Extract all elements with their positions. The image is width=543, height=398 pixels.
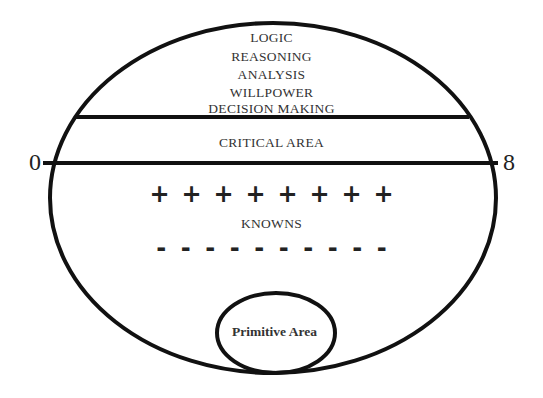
label-willpower: WILLPOWER xyxy=(0,86,543,100)
label-knowns: KNOWNS xyxy=(0,217,543,231)
minus-sign: - xyxy=(370,234,395,262)
minus-sign: - xyxy=(247,234,272,262)
axis-start-label: 0 xyxy=(29,150,41,174)
plus-sign: + xyxy=(176,180,208,208)
plus-sign: + xyxy=(208,180,240,208)
minus-signs-row: ---------- xyxy=(0,234,543,262)
plus-sign: + xyxy=(144,180,176,208)
plus-sign: + xyxy=(304,180,336,208)
plus-sign: + xyxy=(368,180,400,208)
minus-sign: - xyxy=(198,234,223,262)
label-analysis: ANALYSIS xyxy=(0,68,543,82)
minus-sign: - xyxy=(223,234,248,262)
minus-sign: - xyxy=(149,234,174,262)
label-reasoning: REASONING xyxy=(0,50,543,64)
minus-sign: - xyxy=(296,234,321,262)
label-critical-area: CRITICAL AREA xyxy=(0,136,543,150)
axis-end-label: 8 xyxy=(503,150,515,174)
label-logic: LOGIC xyxy=(0,31,543,45)
label-decision-making: DECISION MAKING xyxy=(0,102,543,116)
plus-sign: + xyxy=(240,180,272,208)
minus-sign: - xyxy=(174,234,199,262)
minus-sign: - xyxy=(272,234,297,262)
minus-sign: - xyxy=(321,234,346,262)
plus-sign: + xyxy=(336,180,368,208)
label-primitive-area: Primitive Area xyxy=(3,325,543,339)
plus-sign: + xyxy=(272,180,304,208)
plus-signs-row: ++++++++ xyxy=(0,180,543,208)
minus-sign: - xyxy=(345,234,370,262)
